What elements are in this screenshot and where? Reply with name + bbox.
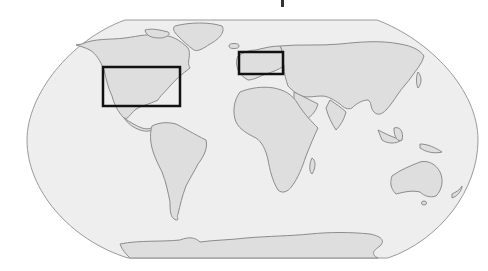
iceland [229, 44, 239, 49]
world-map [0, 0, 488, 271]
tasmania [422, 201, 427, 205]
